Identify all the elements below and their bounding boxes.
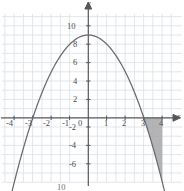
x-tick-label: 4 <box>159 119 163 128</box>
x-tick-label: -2 <box>43 119 50 128</box>
x-tick-label: -4 <box>6 119 13 128</box>
grid-horizontal-lines <box>2 17 182 183</box>
x-tick-label: 0 <box>78 119 82 128</box>
y-axis-label: y <box>87 0 91 8</box>
y-tick-label: -4 <box>69 141 76 150</box>
y-tick-label: 10 <box>67 22 76 31</box>
plot-canvas <box>0 0 184 191</box>
bottom-clipped-tick-label: 10 <box>57 183 66 191</box>
x-axis-label: x <box>177 113 181 121</box>
axes <box>1 2 181 186</box>
y-tick-label: 2 <box>73 95 77 104</box>
y-tick-label: 4 <box>73 77 77 86</box>
y-tick-label: 6 <box>73 58 77 67</box>
x-tick-label: 1 <box>104 119 108 128</box>
y-tick-label: 8 <box>73 40 77 49</box>
x-tick-label: 2 <box>122 119 126 128</box>
y-tick-label: -2 <box>69 123 76 132</box>
x-tick-label: 3 <box>141 119 145 128</box>
parabola-chart-figure: y x -4 -3 -2 -1 0 1 2 3 4 10 8 6 4 2 -2 … <box>0 0 184 191</box>
y-tick-label: -6 <box>69 160 76 169</box>
x-tick-label: -3 <box>25 119 32 128</box>
